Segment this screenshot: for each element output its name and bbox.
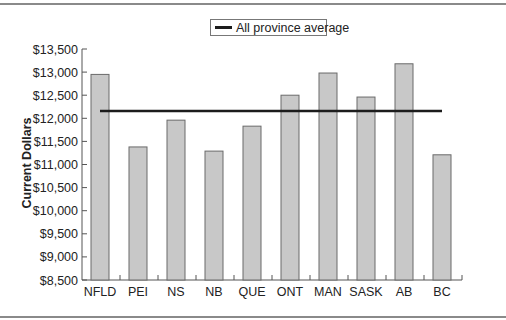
bar-pei bbox=[129, 147, 147, 280]
x-tick-label: NFLD bbox=[84, 285, 117, 299]
bar-sask bbox=[357, 97, 375, 280]
y-tick-label: $13,500 bbox=[33, 43, 78, 57]
x-tick-label: AB bbox=[396, 285, 413, 299]
y-tick-label: $13,000 bbox=[33, 66, 78, 80]
x-tick-label: SASK bbox=[349, 285, 383, 299]
y-tick-label: $10,500 bbox=[33, 181, 78, 195]
y-tick-label: $12,500 bbox=[33, 89, 78, 103]
x-tick-label: QUE bbox=[238, 285, 265, 299]
x-tick-label: NS bbox=[167, 285, 184, 299]
x-tick-label: NB bbox=[205, 285, 222, 299]
bar-que bbox=[243, 126, 261, 280]
bar-nfld bbox=[91, 74, 109, 280]
y-tick-label: $11,000 bbox=[34, 158, 78, 172]
y-tick-label: $11,500 bbox=[34, 135, 78, 149]
bar-ont bbox=[281, 95, 299, 280]
bar-ns bbox=[167, 120, 185, 280]
bar-ab bbox=[395, 64, 413, 280]
bar-bc bbox=[433, 155, 451, 280]
x-tick-label: MAN bbox=[314, 285, 342, 299]
x-tick-label: ONT bbox=[277, 285, 304, 299]
y-tick-label: $8,500 bbox=[40, 274, 78, 288]
bar-man bbox=[319, 73, 337, 280]
x-tick-label: BC bbox=[433, 285, 450, 299]
y-tick-label: $9,500 bbox=[40, 227, 78, 241]
bar-nb bbox=[205, 151, 223, 280]
bar-chart: $8,500$9,000$9,500$10,000$10,500$11,000$… bbox=[0, 0, 506, 320]
x-tick-label: PEI bbox=[128, 285, 148, 299]
y-tick-label: $12,000 bbox=[33, 112, 78, 126]
y-tick-label: $9,000 bbox=[40, 250, 78, 264]
y-tick-label: $10,000 bbox=[33, 204, 78, 218]
